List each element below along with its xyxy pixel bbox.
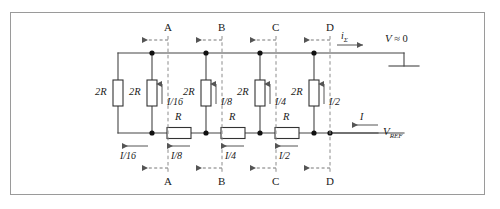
node-dot-top-d <box>311 50 316 55</box>
resistor-label-2r-d: 2R <box>291 87 303 98</box>
rail-current-label-ab: I/8 <box>171 151 182 161</box>
node-dot-bottom-d <box>311 130 316 135</box>
node-dot-bottom-c <box>257 130 262 135</box>
bottom-node-label-a: A <box>164 176 172 187</box>
bottom-node-label-c: C <box>272 176 279 187</box>
resistor-2r-term <box>113 80 123 106</box>
reference-voltage-label: VREF <box>383 126 403 140</box>
reference-voltage-subscript: REF <box>390 132 403 140</box>
rail-current-label-cd: I/2 <box>279 151 290 161</box>
wires <box>118 53 419 133</box>
circuit-schematic-svg <box>0 0 500 209</box>
bottom-node-label-d: D <box>326 176 334 187</box>
top-node-label-b: B <box>218 22 225 33</box>
output-current-label: iΣ <box>341 31 348 44</box>
branch-current-label-a: I/16 <box>167 97 183 107</box>
resistor-label-2r-c: 2R <box>237 87 249 98</box>
reference-voltage-symbol: V <box>383 125 390 137</box>
series-resistor-bodies <box>167 128 299 139</box>
virtual-ground-relation: ≈ 0 <box>394 33 408 44</box>
input-current-label: I <box>360 112 363 122</box>
branch-current-label-d: I/2 <box>329 97 340 107</box>
node-dot-top-a <box>149 50 154 55</box>
node-dot-bottom-a <box>149 130 154 135</box>
virtual-ground-symbol: V <box>385 32 392 44</box>
resistor-2r-a <box>147 80 157 106</box>
branch-current-label-b: I/8 <box>221 97 232 107</box>
branch-current-label-c: I/4 <box>275 97 286 107</box>
virtual-ground-label: V ≈ 0 <box>385 33 408 45</box>
resistor-label-2r-b: 2R <box>183 87 195 98</box>
section-dashed-lines <box>168 36 330 172</box>
top-node-label-d: D <box>326 22 334 33</box>
node-dot-top-b <box>203 50 208 55</box>
resistor-2r-b <box>201 80 211 106</box>
resistor-r-cd <box>275 128 299 139</box>
resistor-2r-c <box>255 80 265 106</box>
resistor-label-r-bc: R <box>229 112 235 123</box>
resistor-r-ab <box>167 128 191 139</box>
resistor-label-r-ab: R <box>175 112 181 123</box>
output-current-subscript: Σ <box>344 36 348 44</box>
top-node-label-c: C <box>272 22 279 33</box>
resistor-label-r-cd: R <box>283 112 289 123</box>
rail-current-arrows <box>122 125 378 146</box>
circuit-figure: A B C D A B C D 2R 2R 2R 2R 2R I/16 I/8 … <box>0 0 500 209</box>
resistor-label-2r-a: 2R <box>129 87 141 98</box>
rail-current-label-bc: I/4 <box>225 151 236 161</box>
node-dot-bottom-b <box>203 130 208 135</box>
resistor-label-2r-term: 2R <box>95 87 107 98</box>
figure-border <box>11 13 485 195</box>
rail-current-label-left: I/16 <box>120 151 136 161</box>
bottom-node-label-b: B <box>218 176 225 187</box>
top-node-label-a: A <box>164 22 172 33</box>
resistor-r-bc <box>221 128 245 139</box>
resistor-2r-d <box>309 80 319 106</box>
node-dot-top-c <box>257 50 262 55</box>
